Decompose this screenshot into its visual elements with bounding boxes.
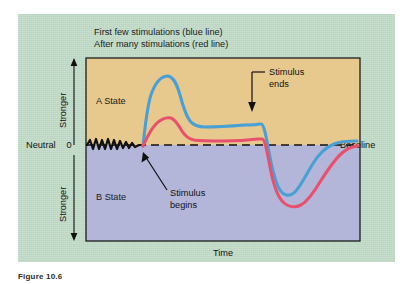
y-axis-lower-label: Stronger: [58, 187, 68, 222]
stimulus-ends-label-line2: ends: [269, 79, 289, 89]
y-axis-lower-arrow-head: [71, 233, 78, 241]
stimulus-ends-label-line1: Stimulus: [269, 67, 305, 77]
y-axis-lower: Stronger: [58, 155, 77, 241]
figure-caption: Figure 10.6: [18, 272, 62, 284]
y-axis-upper-arrow-head: [71, 58, 78, 66]
a-state-region: [86, 58, 360, 145]
y-axis-neutral-label: Neutral: [26, 140, 56, 150]
x-axis-label: Time: [213, 248, 233, 258]
b-state-region: [86, 145, 360, 241]
a-state-label: A State: [96, 96, 126, 106]
y-axis-zero-label: 0: [66, 140, 71, 150]
y-axis-upper: Stronger: [58, 58, 77, 145]
b-state-label: B State: [96, 192, 126, 202]
legend-line-red: After many stimulations (red line): [94, 39, 228, 49]
stimulus-begins-label-line1: Stimulus: [170, 188, 206, 198]
figure-root: First few stimulations (blue line) After…: [0, 0, 413, 284]
stimulus-begins-label-line2: begins: [170, 200, 197, 210]
legend-line-blue: First few stimulations (blue line): [94, 27, 223, 37]
opponent-process-chart: First few stimulations (blue line) After…: [0, 0, 413, 284]
y-axis-upper-label: Stronger: [58, 93, 68, 128]
